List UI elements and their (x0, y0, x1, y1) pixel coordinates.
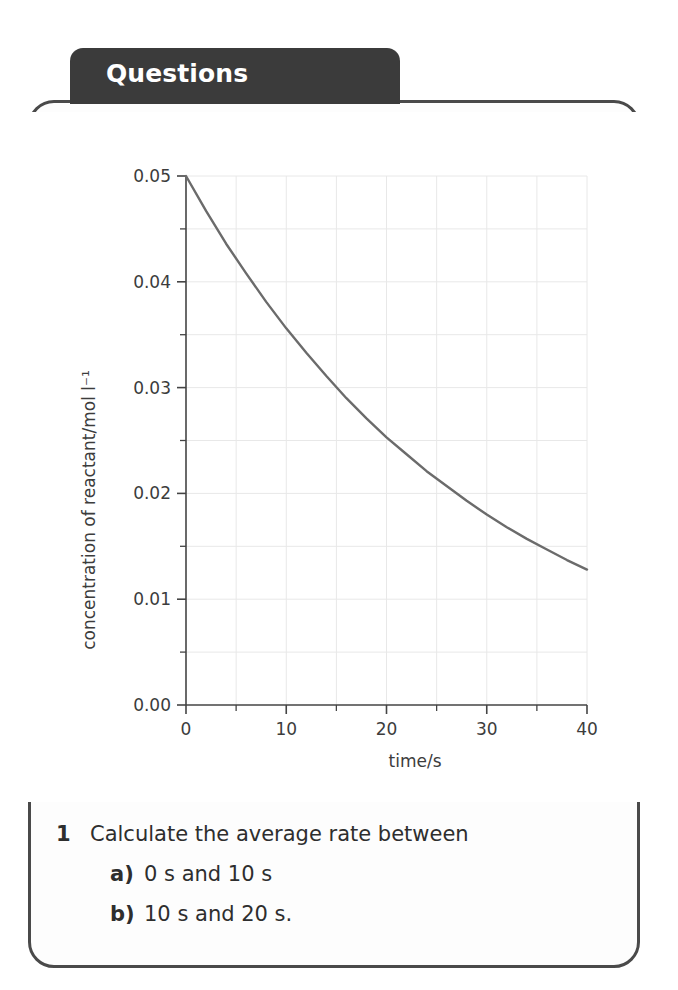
questions-tab: Questions (70, 48, 400, 104)
question-item: a)0 s and 10 s (28, 862, 640, 886)
question-item: 1Calculate the average rate between (28, 822, 640, 846)
y-tick-label: 0.05 (133, 166, 171, 186)
question-text: 0 s and 10 s (144, 862, 640, 886)
chart-panel: 0102030400.000.010.020.030.040.05 time/s… (28, 112, 640, 802)
question-text: Calculate the average rate between (90, 822, 640, 846)
x-tick-label: 40 (576, 719, 598, 739)
x-tick-label: 20 (376, 719, 398, 739)
question-item: b)10 s and 20 s. (28, 902, 640, 926)
chart-ticks (177, 176, 587, 714)
questions-list: 1Calculate the average rate betweena)0 s… (28, 822, 640, 942)
y-tick-label: 0.00 (133, 695, 171, 715)
y-tick-label: 0.01 (133, 589, 171, 609)
concentration-vs-time-chart: 0102030400.000.010.020.030.040.05 time/s… (28, 112, 640, 802)
y-tick-label: 0.02 (133, 483, 171, 503)
x-tick-label: 10 (275, 719, 297, 739)
x-tick-label: 0 (181, 719, 192, 739)
chart-tick-labels: 0102030400.000.010.020.030.040.05 (133, 166, 598, 739)
question-text: 10 s and 20 s. (144, 902, 640, 926)
question-marker: a) (28, 862, 144, 886)
y-axis-title: concentration of reactant/mol l⁻¹ (79, 370, 99, 650)
questions-tab-label: Questions (106, 59, 248, 88)
question-marker: b) (28, 902, 144, 926)
question-marker: 1 (28, 822, 90, 846)
y-tick-label: 0.04 (133, 272, 171, 292)
x-tick-label: 30 (476, 719, 498, 739)
y-tick-label: 0.03 (133, 378, 171, 398)
chart-gridlines (186, 176, 587, 705)
x-axis-title: time/s (389, 751, 442, 771)
